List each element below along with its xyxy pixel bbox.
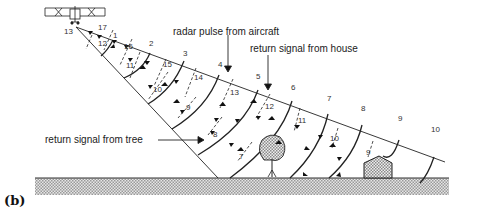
ground xyxy=(35,178,449,195)
svg-text:10: 10 xyxy=(153,85,162,94)
svg-text:11: 11 xyxy=(126,61,135,70)
aircraft-icon xyxy=(45,6,105,24)
label-radar-pulse: radar pulse from aircraft xyxy=(173,26,279,37)
svg-text:6: 6 xyxy=(291,83,296,92)
svg-text:13: 13 xyxy=(230,88,239,97)
svg-text:11: 11 xyxy=(298,116,307,125)
svg-text:7: 7 xyxy=(327,94,332,103)
svg-text:4: 4 xyxy=(218,60,223,69)
svg-text:9: 9 xyxy=(366,148,371,157)
label-return-tree: return signal from tree xyxy=(45,134,143,145)
svg-text:12: 12 xyxy=(265,102,274,111)
radar-diagram: radar pulse from aircraft return signal … xyxy=(0,0,477,213)
svg-text:10: 10 xyxy=(330,134,339,143)
svg-text:16: 16 xyxy=(124,42,133,51)
svg-text:12: 12 xyxy=(98,39,107,48)
svg-text:7: 7 xyxy=(239,152,244,161)
svg-text:2: 2 xyxy=(149,39,154,48)
svg-text:9: 9 xyxy=(398,114,403,123)
svg-text:9: 9 xyxy=(186,103,191,112)
tree-icon xyxy=(259,135,284,177)
svg-text:14: 14 xyxy=(194,73,203,82)
svg-text:17: 17 xyxy=(98,23,107,32)
svg-text:3: 3 xyxy=(183,49,188,58)
house-icon xyxy=(364,156,392,178)
svg-text:10: 10 xyxy=(431,125,440,134)
svg-text:5: 5 xyxy=(256,72,261,81)
label-return-house: return signal from house xyxy=(250,43,358,54)
svg-text:8: 8 xyxy=(361,104,366,113)
svg-text:8: 8 xyxy=(213,130,218,139)
svg-text:1: 1 xyxy=(113,31,118,40)
figure-caption: (b) xyxy=(4,193,25,208)
apex-number: 13 xyxy=(64,27,73,36)
svg-text:15: 15 xyxy=(163,60,172,69)
